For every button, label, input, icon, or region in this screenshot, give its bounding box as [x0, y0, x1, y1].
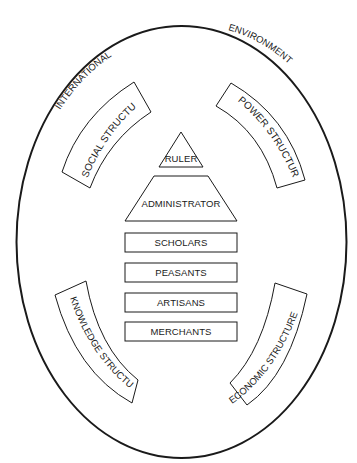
environment-label-right: ENVIRONMENT — [227, 21, 294, 65]
environment-label-left: INTERNATIONAL — [52, 49, 113, 112]
artisans-label: ARTISANS — [157, 297, 205, 308]
power-structure-label: POWER STRUCTURE — [0, 0, 301, 179]
administrator-label: ADMINISTRATOR — [141, 198, 220, 209]
diagram-canvas: INTERNATIONAL ENVIRONMENT SOCIAL STRUCTU… — [0, 0, 357, 463]
scholars-label: SCHOLARS — [154, 237, 207, 248]
peasants-label: PEASANTS — [155, 267, 206, 278]
merchants-label: MERCHANTS — [150, 326, 211, 337]
ruler-label: RULER — [165, 153, 198, 164]
